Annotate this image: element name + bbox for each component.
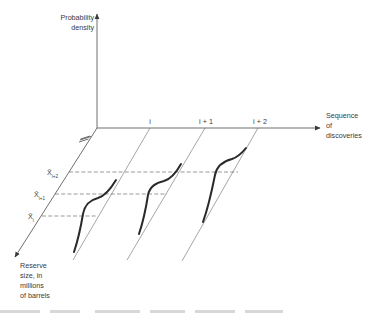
tick-label-i-plus-1: i + 1 — [199, 117, 213, 126]
sequence-label-line1: Sequence — [326, 111, 358, 120]
sequence-label-line3: discoveries — [326, 131, 362, 140]
sequence-label-line2: of — [326, 121, 332, 130]
reserve-size-label-line4: of barrels — [20, 291, 50, 300]
axis-break-icon — [79, 136, 91, 142]
tick-label-i: i — [149, 117, 151, 126]
reserve-size-axis — [15, 128, 97, 257]
reserve-size-label-line2: size, in — [20, 271, 42, 280]
probability-density-label-line1: Probability — [60, 13, 94, 22]
reserve-size-label-line1: Reserve — [20, 261, 47, 270]
reserve-size-diagram: Probability density Sequence of discover… — [0, 0, 382, 313]
probability-density-label-line2: density — [71, 23, 94, 32]
density-curve-i-plus-2 — [203, 148, 246, 222]
tick-label-i-plus-2: i + 2 — [253, 117, 267, 126]
mean-label-i: X̄i — [28, 212, 34, 223]
reserve-size-label-line3: millions — [20, 281, 44, 290]
mean-label-i-plus-2: X̄i+2 — [47, 168, 59, 179]
density-curve-i-plus-1 — [139, 164, 181, 234]
mean-label-i-plus-1: X̄i+1 — [34, 190, 46, 201]
